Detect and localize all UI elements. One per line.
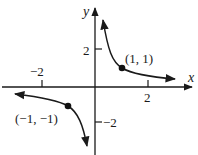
point-label-neg: (−1, −1)	[15, 111, 58, 126]
tick-label-x-2: 2	[144, 90, 151, 105]
tick-label-x-neg2: −2	[30, 64, 44, 79]
curve-branch-positive	[103, 20, 175, 79]
tick-label-y-2: 2	[83, 43, 90, 58]
point-neg1-neg1	[65, 103, 72, 110]
tick-label-y-neg2: −2	[103, 115, 117, 130]
point-label-pos: (1, 1)	[125, 51, 153, 66]
x-axis-label: x	[187, 70, 195, 85]
y-axis-label: y	[81, 4, 90, 19]
hyperbola-graph: x y −2 2 2 −2 (1, 1) (−1, −1)	[0, 0, 198, 155]
